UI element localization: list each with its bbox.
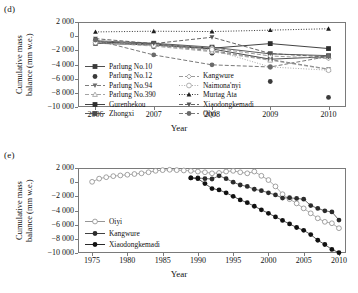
legend-label: Murtag Ata bbox=[200, 91, 237, 98]
panel-e-legend: OiyiKangwureXiaodongkemadi bbox=[84, 216, 244, 252]
legend-marker-icon bbox=[84, 62, 106, 71]
legend-item[interactable]: Gurenhekou bbox=[84, 100, 156, 109]
legend-marker-icon bbox=[84, 81, 106, 90]
legend-label: Oiyi bbox=[106, 218, 122, 225]
legend-item[interactable]: Xiaodongkemadi bbox=[84, 239, 160, 251]
panel-e-xlabel: Year bbox=[0, 269, 358, 279]
legend-column: KangwureNaimona'nyiMurtag AtaXiaodongkem… bbox=[178, 71, 254, 118]
legend-column: OiyiKangwureXiaodongkemadi bbox=[84, 216, 160, 251]
legend-label: Naimona'nyi bbox=[200, 82, 241, 89]
panel-d-xlabel: Year bbox=[0, 123, 358, 133]
legend-item[interactable]: Oiyi bbox=[84, 216, 160, 228]
legend-label: Zhongxi bbox=[106, 110, 134, 117]
panel-d: (d) Cumulative mass balance (mm w.e.) 2 … bbox=[0, 0, 358, 146]
legend-marker-icon bbox=[178, 81, 200, 90]
legend-item[interactable]: Naimona'nyi bbox=[178, 81, 254, 90]
legend-marker-icon bbox=[178, 100, 200, 109]
legend-marker-icon bbox=[84, 109, 106, 118]
legend-item[interactable]: Parlung No.94 bbox=[84, 81, 156, 90]
legend-marker-icon bbox=[84, 100, 106, 109]
panel-e: (e) Cumulative mass balance (mm w.e.) 2 … bbox=[0, 146, 358, 293]
legend-label: Kangwure bbox=[200, 72, 234, 79]
legend-label: Parlung No.390 bbox=[106, 91, 156, 98]
legend-item[interactable]: Kangwure bbox=[84, 228, 160, 240]
legend-label: Gurenhekou bbox=[106, 101, 146, 108]
legend-label: Xiaodongkemadi bbox=[200, 101, 254, 108]
legend-item[interactable]: Parlung No.12 bbox=[84, 71, 156, 80]
legend-label: Kangwure bbox=[106, 230, 140, 237]
legend-label: Parlung No.12 bbox=[106, 72, 152, 79]
legend-marker-icon bbox=[84, 217, 106, 226]
legend-item[interactable]: Parlung No.390 bbox=[84, 90, 156, 99]
legend-item[interactable]: Parlung No.10 bbox=[84, 62, 156, 71]
panel-d-legend: Parlung No.10Parlung No.12Parlung No.94P… bbox=[84, 62, 334, 108]
legend-marker-icon bbox=[178, 109, 200, 118]
legend-label: Xiaodongkemadi bbox=[106, 241, 160, 248]
legend-marker-icon bbox=[84, 240, 106, 249]
legend-item[interactable]: Xiaodongkemadi bbox=[178, 100, 254, 109]
legend-item[interactable]: Zhongxi bbox=[84, 109, 156, 118]
legend-item[interactable]: Murtag Ata bbox=[178, 90, 254, 99]
legend-marker-icon bbox=[178, 72, 200, 81]
legend-column: Parlung No.10Parlung No.12Parlung No.94P… bbox=[84, 62, 156, 118]
legend-label: Parlung No.94 bbox=[106, 82, 152, 89]
legend-marker-icon bbox=[84, 72, 106, 81]
legend-marker-icon bbox=[178, 90, 200, 99]
legend-item[interactable]: Kangwure bbox=[178, 71, 254, 80]
legend-marker-icon bbox=[84, 90, 106, 99]
legend-item[interactable]: Oiyi bbox=[178, 109, 254, 118]
legend-marker-icon bbox=[84, 229, 106, 238]
legend-label: Parlung No.10 bbox=[106, 63, 152, 70]
legend-label: Oiyi bbox=[200, 110, 216, 117]
